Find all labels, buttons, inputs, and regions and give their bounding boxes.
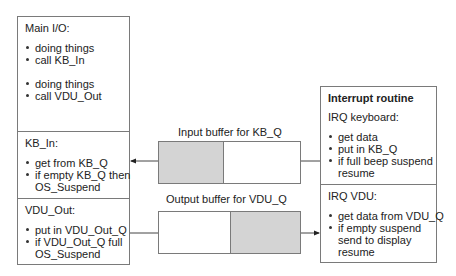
list-item-continuation: resume — [328, 167, 433, 179]
list-item-continuation: send to display — [328, 234, 444, 246]
input-buffer — [158, 141, 301, 184]
kb-in-section: KB_In: get from KB_Q if empty KB_Q then … — [18, 131, 129, 198]
bullet-icon — [26, 173, 29, 176]
list-item: put in VDU_Out_Q — [25, 224, 127, 236]
bullet-icon — [329, 226, 332, 229]
list-item: get data — [328, 131, 433, 143]
bullet-icon — [26, 240, 29, 243]
interrupt-title: Interrupt routine — [328, 92, 414, 105]
irq-keyboard-section: Interrupt routine IRQ keyboard: get data… — [321, 87, 436, 184]
list-item: if empty KB_Q then — [25, 169, 130, 181]
kb-in-list: get from KB_Q if empty KB_Q then OS_Susp… — [25, 157, 130, 193]
bullet-icon — [26, 94, 29, 97]
bullet-icon — [26, 161, 29, 164]
list-item: if full beep suspend — [328, 155, 433, 167]
list-item: if empty suspend — [328, 222, 444, 234]
irq-vdu-title: IRQ VDU: — [328, 190, 377, 203]
output-buffer — [158, 211, 301, 254]
interrupt-routine-box: Interrupt routine IRQ keyboard: get data… — [320, 86, 437, 263]
list-item: get data from VDU_Q — [328, 210, 444, 222]
irq-vdu-list: get data from VDU_Q if empty suspend sen… — [328, 210, 444, 258]
input-buffer-filled — [159, 142, 224, 183]
main-program-box: Main I/O: doing things call KB_In doing … — [17, 16, 130, 265]
list-item: doing things — [25, 78, 102, 90]
bullet-icon — [26, 46, 29, 49]
output-buffer-filled — [230, 212, 300, 253]
list-item-continuation: OS_Suspend — [25, 248, 127, 260]
bullet-icon — [329, 135, 332, 138]
bullet-icon — [329, 147, 332, 150]
bullet-icon — [329, 159, 332, 162]
main-io-list-1: doing things call KB_In — [25, 42, 94, 66]
main-io-title: Main I/O: — [25, 22, 70, 35]
main-io-list-2: doing things call VDU_Out — [25, 78, 102, 102]
vdu-out-section: VDU_Out: put in VDU_Out_Q if VDU_Out_Q f… — [18, 198, 129, 265]
list-item: if VDU_Out_Q full — [25, 236, 127, 248]
list-item: doing things — [25, 42, 94, 54]
list-item-continuation: OS_Suspend — [25, 181, 130, 193]
list-item: call KB_In — [25, 54, 94, 66]
main-io-section: Main I/O: doing things call KB_In doing … — [18, 17, 129, 131]
list-item: put in KB_Q — [328, 143, 433, 155]
list-item: get from KB_Q — [25, 157, 130, 169]
vdu-out-list: put in VDU_Out_Q if VDU_Out_Q full OS_Su… — [25, 224, 127, 260]
list-item: call VDU_Out — [25, 90, 102, 102]
irq-vdu-section: IRQ VDU: get data from VDU_Q if empty su… — [321, 184, 436, 263]
bullet-icon — [26, 58, 29, 61]
output-buffer-label: Output buffer for VDU_Q — [166, 193, 287, 206]
vdu-out-title: VDU_Out: — [25, 204, 75, 217]
irq-keyboard-title: IRQ keyboard: — [328, 111, 399, 124]
bullet-icon — [26, 228, 29, 231]
bullet-icon — [329, 214, 332, 217]
input-buffer-label: Input buffer for KB_Q — [178, 126, 282, 139]
irq-keyboard-list: get data put in KB_Q if full beep suspen… — [328, 131, 433, 179]
bullet-icon — [26, 82, 29, 85]
kb-in-title: KB_In: — [25, 137, 58, 150]
list-item-continuation: resume — [328, 246, 444, 258]
